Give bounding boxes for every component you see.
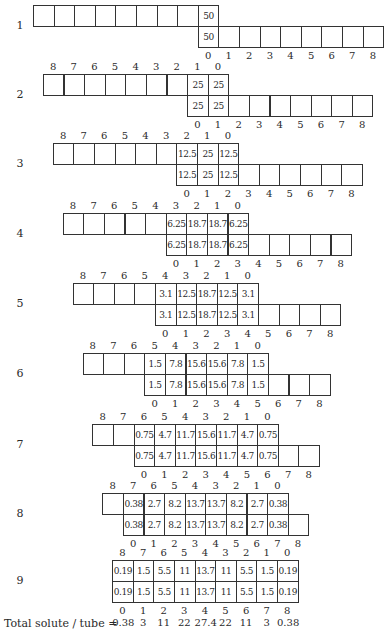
lower-phase-cell-filled: 12.5	[217, 304, 239, 326]
upper-phase-cell	[167, 74, 189, 96]
upper-phase-cell	[115, 143, 137, 165]
upper-phase-cell-filled: 25	[187, 74, 209, 96]
lower-phase-cell	[289, 234, 311, 256]
lower-phase-cell	[363, 26, 384, 48]
lower-phase-cell	[352, 95, 374, 117]
upper-phase-cell-filled: 18.7	[186, 213, 208, 235]
bottom-index-label: 6	[257, 469, 278, 480]
bottom-index-label: 1	[197, 188, 218, 199]
bottom-index-label: 0	[155, 328, 176, 339]
bottom-index-label: 3	[228, 258, 249, 269]
top-index-label: 7	[113, 411, 134, 422]
top-index-label: 3	[215, 547, 236, 558]
upper-phase-cell	[94, 143, 116, 165]
top-index-label: 2	[196, 270, 217, 281]
upper-phase-cell-filled: 11	[215, 560, 237, 582]
bottom-index-label: 6	[300, 188, 321, 199]
upper-phase-cell	[146, 74, 168, 96]
upper-phase-cell-filled: 11	[174, 560, 196, 582]
lower-phase-cell	[298, 445, 320, 467]
bottom-index-label: 2	[239, 50, 260, 61]
lower-phase-cell-filled: 18.7	[196, 304, 218, 326]
row-label: 2	[13, 88, 27, 101]
top-index-label: 4	[125, 61, 146, 72]
bottom-index-label: 4	[227, 398, 248, 409]
lower-phase-cell-filled: 3.1	[155, 304, 177, 326]
upper-phase-cell	[92, 424, 114, 446]
lower-phase-cell-filled: 11	[215, 581, 237, 603]
upper-phase-cell	[114, 283, 136, 305]
top-index-label: 6	[104, 200, 125, 211]
upper-phase-cell	[177, 5, 199, 27]
upper-phase-cell	[156, 143, 178, 165]
top-index-label: 1	[247, 480, 268, 491]
upper-phase-cell-filled: 0.38	[267, 493, 289, 515]
upper-phase-cell	[135, 143, 157, 165]
top-index-label: 7	[83, 200, 104, 211]
lower-phase-cell-filled: 12.5	[176, 164, 198, 186]
lower-phase-cell-filled: 5.5	[236, 581, 258, 603]
total-solute-value: 3	[256, 617, 277, 628]
upper-phase-cell-filled: 18.7	[196, 283, 218, 305]
lower-phase-cell	[270, 95, 292, 117]
top-index-label: 3	[176, 270, 197, 281]
top-index-label: 3	[186, 340, 207, 351]
top-index-label: 2	[167, 61, 188, 72]
bottom-index-label: 1	[208, 119, 229, 130]
upper-phase-cell-filled: 2.7	[144, 493, 166, 515]
lower-phase-cell-filled: 0.19	[277, 581, 299, 603]
bottom-index-label: 8	[298, 469, 319, 480]
lower-phase-cell-filled: 18.7	[207, 234, 229, 256]
upper-phase-cell-filled: 7.8	[165, 353, 187, 375]
bottom-index-label: 8	[320, 328, 341, 339]
bottom-index-label: 2	[207, 258, 228, 269]
upper-phase-cell	[104, 213, 126, 235]
upper-phase-cell	[136, 5, 158, 27]
upper-phase-cell-filled: 1.5	[256, 560, 278, 582]
lower-phase-cell	[331, 234, 353, 256]
lower-phase-cell	[331, 95, 353, 117]
bottom-index-label: 2	[186, 398, 207, 409]
bottom-index-label: 5	[215, 605, 236, 616]
top-index-label: 8	[112, 547, 133, 558]
top-index-label: 5	[174, 547, 195, 558]
upper-phase-cell	[157, 5, 179, 27]
top-index-label: 6	[124, 340, 145, 351]
lower-phase-cell-filled: 18.7	[186, 234, 208, 256]
total-solute-value: 0.38	[277, 617, 298, 628]
upper-phase-cell-filled: 5.5	[153, 560, 175, 582]
lower-phase-cell	[228, 95, 250, 117]
top-index-label: 5	[164, 480, 185, 491]
bottom-index-label: 6	[279, 328, 300, 339]
total-solute-value: 0.38	[112, 617, 133, 628]
upper-phase-cell	[53, 143, 75, 165]
upper-phase-cell	[73, 283, 95, 305]
row-label: 3	[13, 157, 27, 170]
lower-phase-cell-filled: 5.5	[153, 581, 175, 603]
upper-phase-cell-filled: 25	[197, 143, 219, 165]
lower-phase-cell	[269, 234, 291, 256]
top-index-label: 2	[216, 411, 237, 422]
bottom-index-label: 0	[166, 258, 187, 269]
lower-phase-cell	[218, 26, 240, 48]
row-label: 9	[13, 574, 27, 587]
bottom-index-label: 5	[247, 398, 268, 409]
top-index-label: 5	[115, 130, 136, 141]
row-label: 6	[13, 367, 27, 380]
lower-phase-cell	[248, 234, 270, 256]
upper-phase-cell-filled: 13.7	[205, 493, 227, 515]
top-index-label: 8	[43, 61, 64, 72]
bottom-index-label: 5	[258, 328, 279, 339]
lower-phase-cell-filled: 1.5	[247, 374, 269, 396]
bottom-index-label: 8	[331, 258, 352, 269]
lower-phase-cell	[280, 26, 302, 48]
top-index-label: 0	[218, 130, 239, 141]
lower-phase-cell-filled: 11.7	[175, 445, 197, 467]
upper-phase-cell	[95, 5, 117, 27]
lower-phase-cell	[299, 304, 321, 326]
top-index-label: 6	[153, 547, 174, 558]
top-index-label: 1	[197, 130, 218, 141]
bottom-index-label: 0	[187, 119, 208, 130]
top-index-label: 0	[257, 411, 278, 422]
top-index-label: 2	[186, 200, 207, 211]
